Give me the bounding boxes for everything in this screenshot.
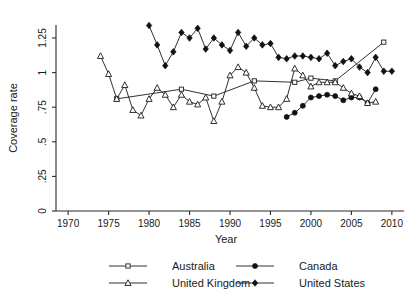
x-tick-label: 1980 — [138, 218, 161, 229]
data-point-filled-diamond — [292, 53, 297, 60]
data-point-filled-diamond — [389, 68, 394, 75]
data-series-group — [97, 22, 394, 123]
data-point-filled-diamond — [227, 47, 232, 54]
legend-label: United States — [299, 277, 366, 289]
data-point-open-triangle — [243, 69, 249, 75]
data-point-open-square — [212, 94, 216, 98]
chart-figure: 0.25.5.7511.25 1970197519801985199019952… — [0, 0, 415, 302]
data-point-open-triangle — [259, 103, 265, 109]
data-point-filled-diamond — [365, 69, 370, 76]
data-point-open-triangle — [170, 104, 176, 110]
data-point-open-triangle — [154, 85, 160, 91]
data-point-filled-circle — [325, 92, 330, 97]
data-point-filled-diamond — [341, 58, 346, 65]
series-united-kingdom — [97, 53, 378, 124]
data-point-filled-diamond — [154, 42, 159, 49]
x-tick-label: 2005 — [340, 218, 363, 229]
data-point-filled-circle — [341, 98, 346, 103]
data-point-filled-circle — [284, 114, 289, 119]
data-point-filled-diamond — [179, 29, 184, 36]
x-tick-label: 1975 — [97, 218, 120, 229]
data-point-filled-circle — [300, 103, 305, 108]
data-point-filled-diamond — [373, 54, 378, 61]
series-united-states — [146, 22, 394, 76]
x-tick-label: 2000 — [300, 218, 323, 229]
data-point-open-triangle — [348, 90, 354, 96]
data-point-open-triangle — [122, 82, 128, 88]
data-point-open-triangle — [292, 65, 298, 71]
data-point-filled-diamond — [381, 68, 386, 75]
data-point-filled-diamond — [268, 40, 273, 47]
x-tick-label: 1995 — [259, 218, 282, 229]
x-tick-label: 2010 — [381, 218, 404, 229]
legend-label: Canada — [299, 260, 338, 272]
legend-item-united-kingdom[interactable]: United Kingdom — [109, 277, 250, 289]
data-point-open-triangle — [178, 92, 184, 98]
data-point-filled-circle — [373, 87, 378, 92]
series-australia — [115, 40, 386, 101]
data-point-filled-circle — [253, 264, 258, 269]
data-point-open-triangle — [340, 85, 346, 91]
y-axis-title: Coverage rate — [7, 83, 19, 153]
data-point-filled-diamond — [316, 55, 321, 62]
legend-item-canada[interactable]: Canada — [236, 260, 338, 272]
data-point-filled-diamond — [235, 29, 240, 36]
data-point-open-triangle — [284, 96, 290, 102]
x-axis-ticks: 197019751980198519901995200020052010 — [57, 211, 403, 229]
data-point-open-square — [252, 79, 256, 83]
data-point-open-triangle — [251, 85, 257, 91]
data-point-open-triangle — [138, 112, 144, 118]
data-point-open-square — [382, 40, 386, 44]
x-tick-label: 1985 — [178, 218, 201, 229]
coverage-rate-line-chart: 0.25.5.7511.25 1970197519801985199019952… — [0, 0, 415, 302]
legend-item-united-states[interactable]: United States — [236, 277, 366, 289]
data-point-filled-diamond — [260, 42, 265, 49]
y-axis-ticks: 0.25.5.7511.25 — [37, 28, 56, 214]
series-canada — [284, 87, 378, 120]
data-point-filled-diamond — [171, 49, 176, 56]
chart-legend: AustraliaCanadaUnited KingdomUnited Stat… — [109, 260, 366, 289]
x-axis-title: Year — [215, 233, 238, 245]
data-point-open-square — [126, 264, 130, 268]
data-point-filled-circle — [317, 94, 322, 99]
data-point-filled-diamond — [284, 55, 289, 62]
data-point-open-triangle — [130, 107, 136, 113]
data-point-filled-diamond — [146, 22, 151, 29]
data-point-filled-diamond — [252, 280, 257, 287]
data-point-filled-circle — [308, 95, 313, 100]
data-point-open-square — [309, 76, 313, 80]
data-point-open-triangle — [97, 53, 103, 59]
series-path — [149, 26, 392, 73]
data-point-open-triangle — [235, 64, 241, 70]
data-point-filled-circle — [292, 110, 297, 115]
x-tick-label: 1970 — [57, 218, 80, 229]
data-point-filled-diamond — [163, 62, 168, 69]
data-point-filled-circle — [333, 94, 338, 99]
series-path — [287, 89, 376, 117]
y-tick-label: .5 — [37, 137, 48, 146]
data-point-filled-diamond — [276, 54, 281, 61]
y-tick-label: 0 — [37, 208, 48, 214]
legend-item-australia[interactable]: Australia — [109, 260, 216, 272]
data-point-open-square — [293, 80, 297, 84]
y-tick-label: 1.25 — [37, 28, 48, 48]
data-point-filled-diamond — [300, 53, 305, 60]
x-tick-label: 1990 — [219, 218, 242, 229]
y-tick-label: .75 — [37, 100, 48, 114]
data-point-filled-diamond — [219, 42, 224, 49]
data-point-filled-diamond — [308, 54, 313, 61]
data-point-open-triangle — [373, 98, 379, 104]
legend-label: Australia — [172, 260, 216, 272]
data-point-open-triangle — [211, 118, 217, 124]
data-point-open-triangle — [219, 98, 225, 104]
y-tick-label: 1 — [37, 69, 48, 75]
data-point-open-triangle — [106, 71, 112, 77]
y-tick-label: .25 — [37, 169, 48, 183]
